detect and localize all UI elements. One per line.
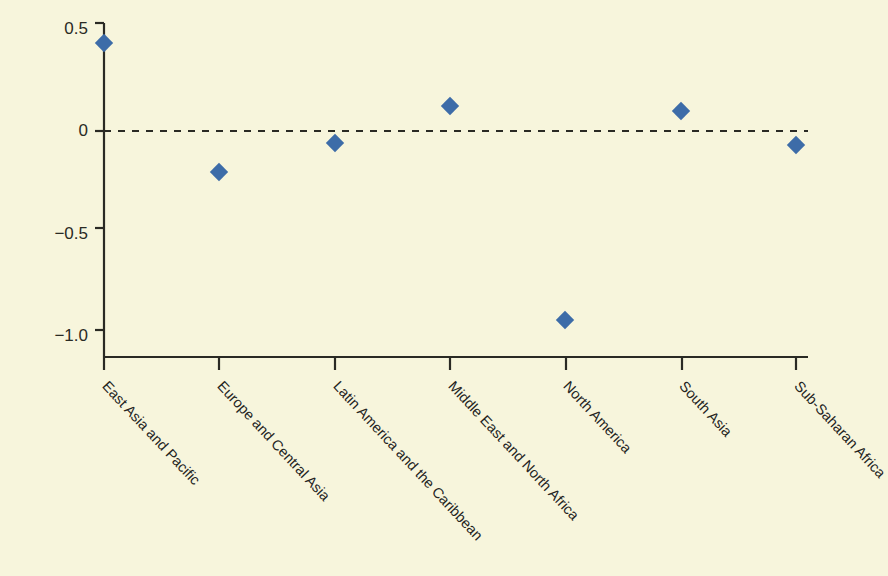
y-tick-label: −0.5	[18, 224, 88, 244]
y-tick-label: −1.0	[18, 326, 88, 346]
y-axis-ticks	[95, 23, 104, 330]
y-tick-label: 0	[18, 121, 88, 141]
y-tick-label: 0.5	[18, 19, 88, 39]
x-axis-ticks	[104, 357, 796, 370]
